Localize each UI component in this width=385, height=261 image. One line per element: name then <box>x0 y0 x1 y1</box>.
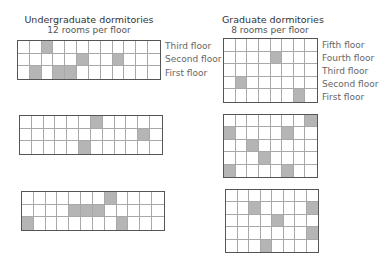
room <box>65 54 77 67</box>
room <box>249 240 261 252</box>
room <box>249 227 261 239</box>
room <box>152 217 164 230</box>
room <box>77 66 89 79</box>
room <box>57 205 69 218</box>
room <box>236 152 248 164</box>
room-occupied <box>77 54 89 67</box>
room <box>271 140 283 152</box>
room <box>113 41 125 54</box>
room <box>124 41 136 54</box>
room <box>295 215 307 227</box>
room <box>136 41 148 54</box>
room-occupied <box>117 217 129 230</box>
room <box>259 64 271 77</box>
room <box>224 52 236 65</box>
room <box>93 217 105 230</box>
room <box>115 141 127 154</box>
room-occupied <box>79 141 91 154</box>
room <box>261 202 273 214</box>
room <box>46 192 58 205</box>
room <box>305 127 317 139</box>
room <box>150 129 162 142</box>
room <box>79 129 91 142</box>
room <box>271 115 283 127</box>
undergrad-title: Undergraduate dormitories <box>17 15 161 25</box>
room <box>126 141 138 154</box>
room <box>105 217 117 230</box>
room <box>271 77 283 90</box>
room-occupied <box>271 52 283 65</box>
room <box>284 190 296 202</box>
room <box>46 205 58 218</box>
room <box>32 141 44 154</box>
room <box>226 190 238 202</box>
room <box>247 39 259 52</box>
room <box>284 215 296 227</box>
room <box>259 52 271 65</box>
room <box>294 52 306 65</box>
room <box>259 39 271 52</box>
room <box>105 205 117 218</box>
undergrad-subtitle: 12 rooms per floor <box>17 25 161 35</box>
room <box>93 192 105 205</box>
grad-floor-label-second: Second floor <box>322 78 378 91</box>
room <box>284 240 296 252</box>
room-occupied <box>282 127 294 139</box>
room <box>20 129 32 142</box>
grad-building-3 <box>225 189 319 253</box>
room <box>103 141 115 154</box>
room-occupied <box>93 205 105 218</box>
room <box>124 54 136 67</box>
room-occupied <box>113 54 125 67</box>
room <box>128 205 140 218</box>
grad-title: Graduate dormitories <box>222 15 318 25</box>
room <box>305 77 317 90</box>
room <box>294 115 306 127</box>
room-occupied <box>307 202 319 214</box>
room <box>236 39 248 52</box>
room-occupied <box>305 115 317 127</box>
room <box>138 141 150 154</box>
room <box>294 77 306 90</box>
room-occupied <box>282 165 294 177</box>
room <box>91 129 103 142</box>
room <box>89 54 101 67</box>
room <box>224 64 236 77</box>
room <box>271 89 283 102</box>
grad-subtitle: 8 rooms per floor <box>222 25 318 35</box>
room <box>136 54 148 67</box>
room <box>55 129 67 142</box>
room <box>284 227 296 239</box>
room <box>247 77 259 90</box>
room <box>34 205 46 218</box>
room <box>22 192 34 205</box>
room <box>22 205 34 218</box>
room <box>101 41 113 54</box>
room-occupied <box>105 192 117 205</box>
room <box>236 140 248 152</box>
grad-floor-label-fourth: Fourth floor <box>322 52 378 65</box>
undergrad-building-1 <box>17 40 161 80</box>
room <box>307 215 319 227</box>
room <box>81 217 93 230</box>
room <box>113 66 125 79</box>
room <box>57 217 69 230</box>
room <box>307 190 319 202</box>
room <box>261 215 273 227</box>
room <box>259 165 271 177</box>
room <box>140 192 152 205</box>
room <box>259 115 271 127</box>
room <box>295 202 307 214</box>
room <box>236 89 248 102</box>
grad-floor-labels: Fifth floor Fourth floor Third floor Sec… <box>322 39 378 104</box>
room <box>77 41 89 54</box>
room <box>152 205 164 218</box>
room <box>282 39 294 52</box>
room <box>115 116 127 129</box>
room <box>81 192 93 205</box>
room <box>18 54 30 67</box>
room <box>32 129 44 142</box>
room <box>42 66 54 79</box>
room <box>91 141 103 154</box>
room <box>247 64 259 77</box>
